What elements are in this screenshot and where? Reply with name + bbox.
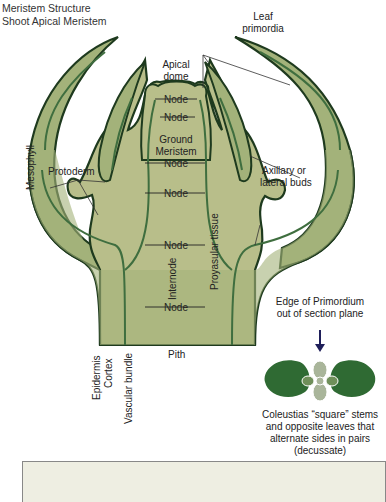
label-ground-meristem: Ground — [159, 134, 192, 145]
caption-line-1: Coleustias “square” stems — [262, 409, 378, 420]
bottom-panel — [22, 461, 386, 502]
label-pith: Pith — [168, 349, 185, 360]
label-epidermis: Epidermis — [91, 356, 102, 400]
svg-text:out of section plane: out of section plane — [277, 308, 364, 319]
caption-line-4: (decussate) — [294, 445, 346, 456]
label-node: Node — [164, 302, 188, 313]
label-internode: Internode — [167, 257, 178, 300]
label-node: Node — [164, 94, 188, 105]
label-mesophyll: Mesophyll — [25, 145, 36, 190]
svg-text:primordia: primordia — [242, 23, 284, 34]
label-vascular-bundle: Vascular bundle — [123, 353, 134, 424]
svg-text:dome: dome — [163, 71, 188, 82]
label-node: Node — [164, 240, 188, 251]
label-cortex: Cortex — [103, 359, 114, 388]
label-leaf-primordia: Leaf — [253, 11, 273, 22]
label-provascular-tissue: Proyasular tissue — [209, 213, 220, 290]
caption-line-2: and opposite leaves that — [266, 421, 375, 432]
svg-text:Meristem: Meristem — [155, 146, 196, 157]
label-node: Node — [164, 188, 188, 199]
label-edge-of-primordium: Edge of Primordium — [276, 296, 364, 307]
label-node: Node — [164, 112, 188, 123]
label-protoderm: Protoderm — [48, 166, 95, 177]
svg-text:lateral buds: lateral buds — [260, 177, 312, 188]
label-apical-dome: Apical — [162, 59, 189, 70]
decussate-cross-section-icon — [265, 360, 376, 401]
label-node: Node — [164, 158, 188, 169]
caption-line-3: alternate sides in pairs — [270, 433, 370, 444]
down-arrow-icon — [315, 330, 325, 352]
label-axillary-buds: Axillary or — [262, 165, 307, 176]
